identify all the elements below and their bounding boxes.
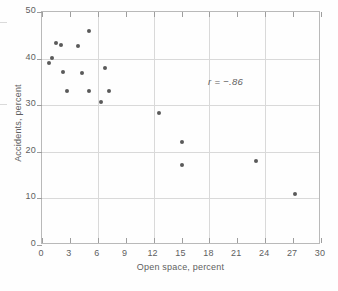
x-axis-tick: [321, 12, 322, 17]
x-axis-tick: [42, 12, 43, 17]
x-axis-tick: [42, 238, 43, 243]
data-point: [80, 71, 84, 75]
vertical-gridline: [209, 12, 210, 243]
x-axis-tick: [182, 238, 183, 243]
x-axis-tick-label: 27: [280, 248, 304, 258]
x-axis-tick: [126, 238, 127, 243]
data-point: [59, 43, 63, 47]
correlation-annotation: r = −.86: [208, 76, 243, 87]
x-axis-tick: [293, 12, 294, 17]
data-point: [54, 41, 58, 45]
data-point: [50, 56, 54, 60]
x-axis-tick: [98, 12, 99, 17]
x-axis-tick: [265, 238, 266, 243]
data-point: [103, 66, 107, 70]
x-axis-tick: [126, 12, 127, 17]
y-axis-tick-label: 10: [14, 191, 36, 201]
x-axis-tick: [70, 238, 71, 243]
vertical-gridline: [154, 12, 155, 243]
x-axis-tick: [98, 238, 99, 243]
y-axis-title: Accidents, percent: [13, 58, 23, 188]
x-axis-tick: [209, 12, 210, 17]
data-point: [180, 140, 184, 144]
data-point: [157, 111, 161, 115]
y-axis-tick-label: 0: [14, 238, 36, 248]
horizontal-gridline: [42, 59, 319, 60]
x-axis-tick: [321, 238, 322, 243]
x-axis-tick-label: 9: [113, 248, 137, 258]
x-axis-tick: [154, 238, 155, 243]
x-axis-tick-label: 6: [85, 248, 109, 258]
scatter-chart-figure: 036912151821242730 01020304050 Open spac…: [0, 0, 338, 291]
y-axis-tick: [37, 152, 42, 153]
data-point: [87, 89, 91, 93]
x-axis-tick-label: 21: [224, 248, 248, 258]
vertical-gridline: [98, 12, 99, 243]
page-margin-mark: [0, 104, 7, 105]
data-point: [76, 44, 80, 48]
x-axis-tick: [237, 12, 238, 17]
horizontal-gridline: [42, 105, 319, 106]
x-axis-tick-label: 24: [252, 248, 276, 258]
data-point: [99, 100, 103, 104]
y-axis-tick: [37, 12, 42, 13]
plot-area: [41, 11, 320, 244]
y-axis-tick: [37, 105, 42, 106]
x-axis-tick: [237, 238, 238, 243]
data-point: [107, 89, 111, 93]
x-axis-tick: [209, 238, 210, 243]
data-point: [61, 70, 65, 74]
data-point: [293, 192, 297, 196]
data-point: [87, 29, 91, 33]
data-point: [180, 163, 184, 167]
x-axis-tick: [182, 12, 183, 17]
x-axis-tick-label: 18: [196, 248, 220, 258]
x-axis-tick-label: 0: [29, 248, 53, 258]
x-axis-tick: [70, 12, 71, 17]
y-axis-tick: [37, 245, 42, 246]
x-axis-tick: [293, 238, 294, 243]
x-axis-tick: [154, 12, 155, 17]
x-axis-title: Open space, percent: [41, 262, 320, 272]
y-axis-tick: [37, 198, 42, 199]
x-axis-tick-label: 12: [141, 248, 165, 258]
x-axis-tick-label: 3: [57, 248, 81, 258]
horizontal-gridline: [42, 152, 319, 153]
y-axis-tick-label: 50: [14, 5, 36, 15]
x-axis-tick-label: 15: [169, 248, 193, 258]
x-axis-tick-label: 30: [308, 248, 332, 258]
page-margin-mark: [0, 22, 7, 23]
x-axis-tick: [265, 12, 266, 17]
y-axis-tick: [37, 59, 42, 60]
data-point: [47, 61, 51, 65]
data-point: [65, 89, 69, 93]
vertical-gridline: [265, 12, 266, 243]
horizontal-gridline: [42, 198, 319, 199]
data-point: [254, 159, 258, 163]
